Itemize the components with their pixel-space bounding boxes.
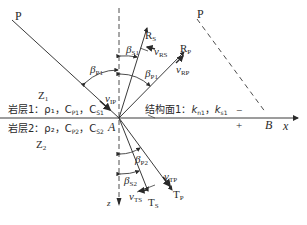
x-axis-label: x bbox=[282, 119, 289, 133]
virtual-p-ray bbox=[197, 19, 266, 113]
ts-label: TS bbox=[148, 196, 159, 210]
z-axis-label: z bbox=[106, 198, 111, 208]
minus-sign: − bbox=[236, 104, 242, 116]
layer1-label: 岩层1：ρ₁，CP1，CS1 bbox=[8, 103, 104, 116]
z-axis-arrowhead bbox=[117, 198, 122, 206]
v-ip-label: vIP bbox=[105, 92, 116, 106]
p-virtual-label: P bbox=[197, 7, 204, 21]
beta-s2-label: βS2 bbox=[123, 174, 137, 188]
rp-label: RP bbox=[180, 42, 191, 56]
beta-p1-left-label: βP1 bbox=[89, 63, 103, 77]
tp-label: TP bbox=[173, 188, 184, 202]
plus-sign: + bbox=[236, 119, 242, 131]
z1-label: Z1 bbox=[38, 89, 49, 103]
layer2-label: 岩层2：ρ₂，CP2，CS2 bbox=[8, 122, 104, 135]
v-tp-label: vTP bbox=[164, 170, 177, 184]
v-ts-arrow bbox=[139, 190, 147, 191]
wave-diagram: P P RS vRS RP vRP βP1 βS1 βP1 vIP Z1 岩层1… bbox=[0, 0, 307, 225]
z2-label: Z2 bbox=[36, 138, 47, 152]
v-rs-label: vRS bbox=[154, 45, 168, 59]
beta-p1-right-label: βP1 bbox=[144, 67, 158, 81]
p-incident-label: P bbox=[15, 9, 22, 23]
rs-label: RS bbox=[145, 29, 156, 43]
v-ts-label: vTS bbox=[129, 190, 142, 204]
beta-s1-label: βS1 bbox=[125, 43, 139, 57]
point-a-label: A bbox=[107, 120, 116, 134]
interface-label: 结构面1：kn1，ks1 bbox=[145, 103, 228, 116]
beta-s2-arc bbox=[120, 171, 139, 174]
point-b-label: B bbox=[265, 118, 273, 132]
v-rp-label: vRP bbox=[176, 63, 190, 77]
v-rs-tick bbox=[140, 48, 148, 51]
reflected-s-ray bbox=[119, 28, 147, 118]
